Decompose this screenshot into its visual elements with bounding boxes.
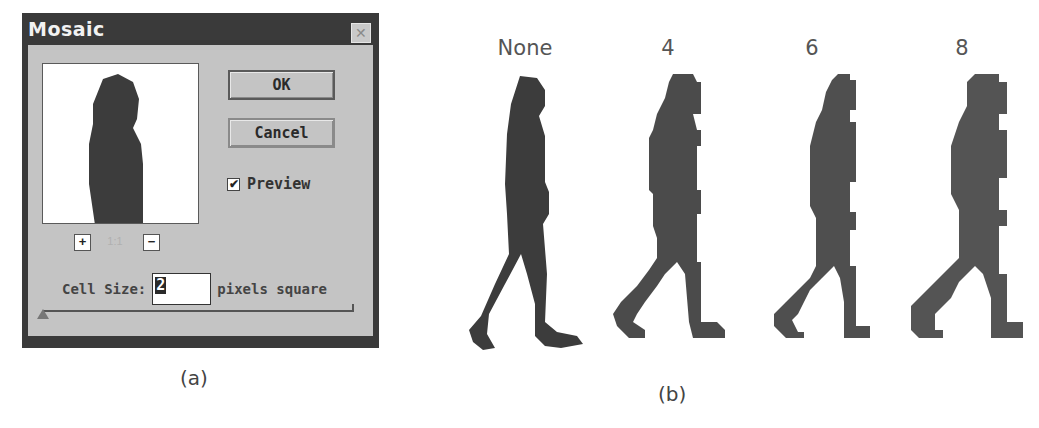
close-icon[interactable]: ✕ (351, 23, 371, 43)
cell-size-row: Cell Size: 2 pixels square (62, 273, 327, 305)
zoom-level: 1:1 (103, 235, 127, 247)
title-bar[interactable]: Mosaic ✕ (22, 13, 379, 45)
cancel-button[interactable]: Cancel (228, 118, 335, 148)
level-label-8: 8 (922, 36, 1002, 60)
caption-a: (a) (180, 366, 208, 390)
preview-checkbox-row[interactable]: ✔ Preview (227, 175, 310, 193)
slider-end-cap (352, 304, 354, 312)
walking-figure-mosaic-6 (760, 74, 870, 354)
dialog-body: + 1:1 − OK Cancel ✔ Preview Cell Size: 2… (28, 45, 373, 336)
dialog-title: Mosaic (28, 18, 105, 40)
walking-figure-mosaic-8 (895, 74, 1035, 354)
walking-figure-none (465, 74, 595, 354)
caption-b: (b) (658, 382, 686, 406)
walking-figure-mosaic-4 (605, 74, 735, 354)
preview-label: Preview (247, 175, 310, 193)
silhouette-preview-image (43, 64, 199, 224)
ok-button[interactable]: OK (228, 70, 335, 100)
cell-size-unit: pixels square (217, 281, 327, 297)
zoom-out-button[interactable]: − (143, 234, 160, 251)
preview-checkbox[interactable]: ✔ (227, 178, 240, 191)
zoom-in-button[interactable]: + (74, 234, 91, 251)
cell-size-input[interactable]: 2 (152, 273, 211, 305)
mosaic-dialog: Mosaic ✕ + 1:1 − OK Cancel ✔ Preview Cel… (22, 13, 379, 348)
cell-size-label: Cell Size: (62, 281, 146, 297)
level-label-none: None (485, 36, 565, 60)
slider-thumb-icon[interactable] (37, 309, 49, 319)
cell-size-slider[interactable] (43, 310, 353, 312)
level-label-4: 4 (628, 36, 708, 60)
level-label-6: 6 (772, 36, 852, 60)
cell-size-value: 2 (155, 277, 166, 294)
preview-pane[interactable] (42, 63, 199, 224)
